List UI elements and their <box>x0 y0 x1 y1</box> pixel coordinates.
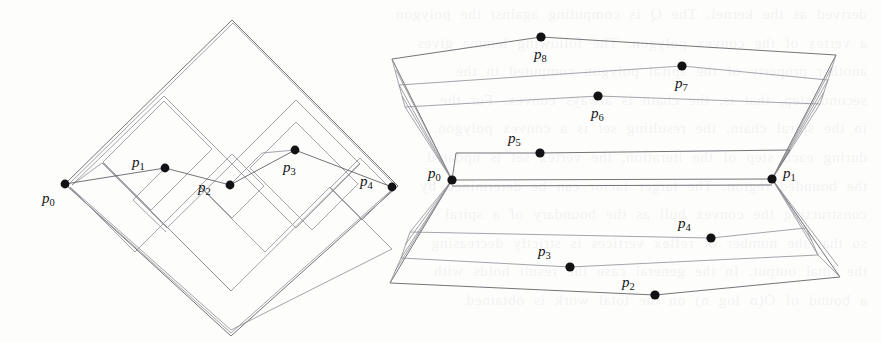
vertex-dot-p2 <box>650 290 659 299</box>
right-ring-p7 <box>399 66 828 180</box>
left-figure-nested-staircase-diamond: p0 p1 p2 p3 p4 <box>41 20 398 336</box>
vertex-label-p6: p6 <box>590 105 604 123</box>
right-ring-p4 <box>410 179 806 238</box>
right-hub-right-pencil-a <box>772 67 832 179</box>
vertex-dot-p3 <box>565 262 574 271</box>
right-figure-labels: p0 p1 p2 p3 p4 p5 p6 p7 p8 <box>427 46 796 292</box>
left-spiral-ring-2 <box>72 96 360 228</box>
vertex-label-p2: p2 <box>621 274 635 292</box>
left-outer-diamond-offset <box>67 23 396 333</box>
vertex-dot-p0 <box>61 180 70 189</box>
left-pocket-1 <box>103 101 212 210</box>
right-ring-p5 <box>452 150 790 180</box>
vertex-label-p3: p3 <box>537 243 551 261</box>
right-hub-left-pencil-d <box>405 180 452 245</box>
vertex-label-p8: p8 <box>533 46 547 64</box>
vertex-label-p5: p5 <box>507 130 521 148</box>
left-outer-diamond <box>65 20 398 336</box>
right-ring-p3 <box>401 179 818 267</box>
vertex-dot-p0 <box>447 175 456 184</box>
vertex-dot-p1 <box>161 164 170 173</box>
right-hub-left-pencil-a <box>396 70 452 180</box>
vertex-dot-p7 <box>677 61 686 70</box>
right-ring-p6 <box>405 96 820 180</box>
vertex-dot-p1 <box>767 174 776 183</box>
vertex-dot-p4 <box>706 233 715 242</box>
vertex-dot-p2 <box>226 181 235 190</box>
right-hub-right-pencil-b <box>772 92 824 179</box>
right-figure-zigzag-fan: p0 p1 p2 p3 p4 p5 p6 p7 p8 <box>390 32 840 299</box>
vertex-dot-p3 <box>291 146 300 155</box>
right-chamber-cap-left-bottom <box>390 232 410 283</box>
vertex-label-p0: p0 <box>41 190 55 208</box>
right-central-chord <box>452 179 772 180</box>
right-hub-right-pencil-c <box>772 179 838 266</box>
vertex-label-p4: p4 <box>359 173 374 191</box>
vertex-dot-p5 <box>535 148 544 157</box>
vertex-label-p0: p0 <box>427 165 441 183</box>
figure-page: derived as the kernel. The Q is computin… <box>0 0 881 343</box>
right-outer-boundary-lower <box>390 179 840 295</box>
right-central-chord-lower <box>452 185 772 186</box>
vertex-label-p3: p3 <box>282 159 296 177</box>
right-hub-left-pencil-c <box>395 180 452 271</box>
figures-canvas: p0 p1 p2 p3 p4 <box>0 0 881 343</box>
vertex-label-p1: p1 <box>782 165 796 183</box>
vertex-label-p7: p7 <box>674 75 688 93</box>
left-lower-corridor-2 <box>151 211 231 291</box>
vertex-label-p1: p1 <box>131 154 145 172</box>
vertex-label-p2: p2 <box>197 179 211 197</box>
right-outer-boundary <box>392 37 836 180</box>
left-figure-vertices <box>61 146 397 192</box>
left-spiral-ring-1 <box>70 187 392 330</box>
vertex-dot-p6 <box>593 91 602 100</box>
right-hub-right-pencil-d <box>772 179 812 241</box>
vertex-label-p4: p4 <box>677 215 692 233</box>
vertex-dot-p4 <box>388 183 397 192</box>
vertex-dot-p8 <box>536 32 545 41</box>
right-hub-left-pencil-b <box>402 96 452 180</box>
